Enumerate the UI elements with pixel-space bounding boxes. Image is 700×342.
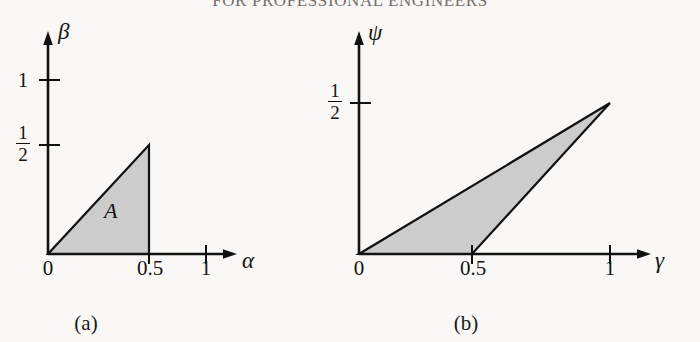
figure-caption-a: (a) <box>0 311 246 336</box>
x-axis-arrow-b <box>637 249 651 259</box>
plot-b <box>320 14 700 289</box>
x-ticklabel-zero-a: 0 <box>38 256 58 281</box>
x-axis-label-b: γ <box>655 248 664 274</box>
y-ticklabel-half-a: 1 2 <box>13 123 33 164</box>
fraction-denominator: 2 <box>325 103 345 122</box>
region-label-a: A <box>104 198 117 224</box>
x-ticklabel-one-b: 1 <box>600 256 620 281</box>
y-axis-arrow-b <box>354 31 364 45</box>
fraction-denominator: 2 <box>13 145 33 164</box>
x-ticklabel-half-b: 0.5 <box>453 256 493 281</box>
y-ticklabel-one-a: 1 <box>13 68 33 93</box>
y-axis-label-b: ψ <box>368 20 382 46</box>
x-axis-label-a: α <box>242 248 254 274</box>
figure-caption-b: (b) <box>276 311 656 336</box>
x-ticklabel-half-a: 0.5 <box>130 256 170 281</box>
figure-panel-a: β α 1 1 2 0 0.5 1 A (a) <box>0 0 320 342</box>
y-axis-label-a: β <box>58 19 69 45</box>
x-ticklabel-one-a: 1 <box>196 256 216 281</box>
fraction-numerator: 1 <box>325 81 345 100</box>
fraction-numerator: 1 <box>13 123 33 142</box>
region-a-shape <box>48 145 149 254</box>
x-ticklabel-zero-b: 0 <box>349 256 369 281</box>
figure-page: FOR PROFESSIONAL ENGINEERS β α 1 1 <box>0 0 700 342</box>
x-axis-arrow-a <box>223 249 237 259</box>
figure-panel-b: ψ γ 1 2 0 0.5 1 (b) <box>320 0 700 342</box>
y-axis-arrow-a <box>43 31 53 45</box>
plot-a <box>0 14 320 289</box>
region-b-shape <box>359 103 610 254</box>
y-ticklabel-half-b: 1 2 <box>325 81 345 122</box>
